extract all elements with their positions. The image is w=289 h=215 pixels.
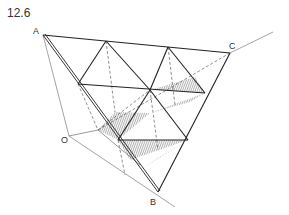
shaded-faces [98, 77, 205, 170]
axes [43, 32, 273, 207]
tetrahedra-diagram [0, 0, 289, 215]
hidden-edges [78, 41, 230, 175]
